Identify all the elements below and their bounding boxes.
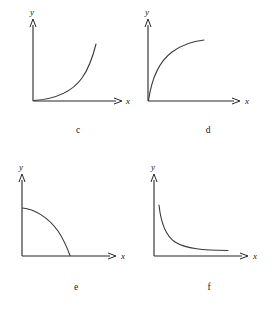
y-axis-label: y: [29, 7, 34, 17]
x-axis-label: x: [244, 96, 249, 106]
panel-letter-e: e: [66, 283, 86, 293]
panel-letter-c: c: [68, 126, 88, 136]
curve-e: [23, 208, 71, 256]
curve-c: [34, 44, 96, 101]
x-axis-label: x: [125, 96, 130, 106]
y-axis-label: y: [150, 162, 155, 172]
curve-d: [149, 40, 205, 101]
y-axis-label: y: [144, 7, 149, 17]
panel-letter-d: d: [198, 126, 218, 136]
x-axis-label: x: [252, 251, 257, 261]
figure-sheet: y x y x y x: [0, 0, 272, 309]
y-axis-label: y: [18, 162, 23, 172]
panel-letter-f: f: [199, 283, 219, 293]
x-axis-label: x: [120, 251, 125, 261]
curve-f: [159, 205, 228, 251]
